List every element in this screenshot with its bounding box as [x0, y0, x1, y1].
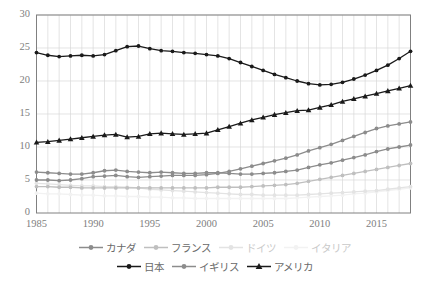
series-marker-4 [261, 69, 265, 73]
legend-item-ドイツ[interactable]: ドイツ [218, 240, 276, 255]
line-chart: 051015202530 198519901995200020052010201… [0, 0, 429, 287]
series-marker-5 [261, 162, 265, 166]
series-marker-5 [171, 173, 175, 177]
series-marker-1 [386, 166, 390, 170]
legend-label: イギリス [199, 259, 239, 274]
y-tick-label: 25 [4, 42, 30, 52]
series-marker-2 [239, 193, 243, 197]
legend-swatch-circle [143, 242, 169, 253]
series-marker-1 [193, 186, 197, 190]
series-marker-0 [69, 172, 73, 176]
series-marker-1 [57, 185, 61, 189]
series-marker-2 [205, 191, 209, 195]
series-marker-4 [193, 51, 197, 55]
x-tick-label: 2015 [355, 218, 399, 229]
series-marker-4 [103, 53, 107, 57]
legend-swatch-circle [78, 242, 104, 253]
legend-item-イギリス[interactable]: イギリス [171, 259, 239, 274]
series-marker-4 [375, 69, 379, 73]
series-marker-3 [193, 197, 197, 201]
series-marker-4 [397, 57, 401, 61]
series-marker-3 [103, 194, 107, 198]
series-marker-1 [171, 186, 175, 190]
series-marker-1 [341, 173, 345, 177]
legend-swatch-circle [116, 261, 142, 272]
series-marker-4 [114, 49, 118, 53]
series-marker-3 [57, 192, 61, 196]
series-marker-0 [409, 143, 413, 147]
series-marker-2 [318, 192, 322, 196]
series-marker-0 [397, 145, 401, 149]
series-marker-2 [182, 189, 186, 193]
series-marker-2 [227, 192, 231, 196]
series-marker-4 [307, 82, 311, 86]
series-marker-1 [103, 186, 107, 190]
series-marker-4 [352, 77, 356, 81]
series-marker-4 [46, 53, 50, 57]
series-marker-4 [227, 57, 231, 61]
series-marker-3 [35, 191, 39, 195]
series-marker-4 [125, 45, 129, 49]
series-marker-1 [363, 170, 367, 174]
series-marker-4 [329, 82, 333, 86]
series-marker-0 [295, 168, 299, 172]
series-marker-3 [148, 195, 152, 199]
legend-item-イタリア[interactable]: イタリア [283, 240, 351, 255]
series-marker-1 [216, 185, 220, 189]
series-marker-3 [91, 193, 95, 197]
series-marker-0 [80, 172, 84, 176]
series-marker-5 [91, 175, 95, 179]
series-marker-5 [35, 178, 39, 182]
series-marker-4 [284, 76, 288, 80]
legend-item-フランス[interactable]: フランス [143, 240, 211, 255]
series-marker-5 [137, 175, 141, 179]
series-marker-5 [363, 131, 367, 135]
series-marker-5 [125, 175, 129, 179]
series-marker-0 [307, 166, 311, 170]
series-marker-5 [284, 156, 288, 160]
series-marker-4 [159, 49, 163, 53]
legend-swatch-circle [283, 242, 309, 253]
legend-item-アメリカ[interactable]: アメリカ [246, 259, 313, 274]
series-marker-2 [307, 193, 311, 197]
series-marker-4 [205, 53, 209, 57]
series-marker-0 [159, 170, 163, 174]
legend-item-日本[interactable]: 日本 [116, 259, 164, 274]
series-marker-5 [69, 178, 73, 182]
series-marker-1 [397, 164, 401, 168]
y-tick-label: 10 [4, 141, 30, 151]
series-marker-2 [386, 187, 390, 191]
series-marker-1 [205, 186, 209, 190]
series-marker-1 [409, 162, 413, 166]
series-marker-4 [386, 63, 390, 67]
series-marker-1 [295, 181, 299, 185]
series-marker-3 [46, 192, 50, 196]
series-marker-4 [57, 55, 61, 59]
series-marker-1 [125, 186, 129, 190]
series-marker-5 [205, 173, 209, 177]
series-marker-1 [273, 183, 277, 187]
series-marker-0 [352, 156, 356, 160]
series-marker-4 [80, 53, 84, 57]
series-marker-5 [227, 170, 231, 174]
series-marker-3 [125, 195, 129, 199]
series-marker-3 [284, 197, 288, 201]
series-marker-5 [148, 175, 152, 179]
legend-swatch-circle [218, 242, 244, 253]
legend-item-カナダ[interactable]: カナダ [78, 240, 136, 255]
series-marker-4 [273, 73, 277, 77]
series-marker-0 [35, 170, 39, 174]
series-marker-3 [182, 196, 186, 200]
series-marker-4 [35, 51, 39, 55]
series-marker-0 [386, 147, 390, 151]
series-marker-3 [171, 196, 175, 200]
series-marker-2 [295, 193, 299, 197]
series-marker-1 [182, 186, 186, 190]
legend-row-secondary: 日本イギリスアメリカ [0, 257, 429, 276]
series-marker-3 [80, 193, 84, 197]
x-tick-label: 2010 [298, 218, 342, 229]
legend-swatch-circle [171, 261, 197, 272]
series-marker-2 [363, 189, 367, 193]
series-marker-5 [114, 173, 118, 177]
series-marker-2 [261, 193, 265, 197]
